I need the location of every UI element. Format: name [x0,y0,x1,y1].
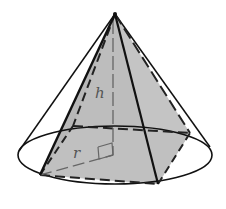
cone-pyramid-diagram: h r [0,0,226,209]
apex-point [113,12,117,16]
radius-label: r [73,144,81,162]
height-label: h [95,84,105,102]
